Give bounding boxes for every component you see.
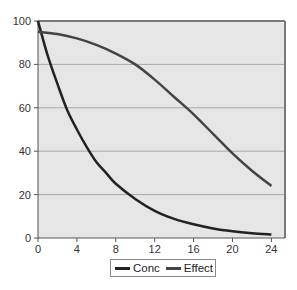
- legend-item-conc: Conc: [115, 262, 160, 274]
- y-tick-label: 20: [19, 189, 31, 201]
- legend-item-effect: Effect: [166, 262, 213, 274]
- y-tick-label: 60: [19, 102, 31, 114]
- legend-label-conc: Conc: [133, 262, 160, 274]
- legend-label-effect: Effect: [184, 262, 213, 274]
- x-tick-label: 4: [74, 243, 80, 255]
- x-tick-label: 0: [35, 243, 41, 255]
- y-tick-label: 80: [19, 58, 31, 70]
- x-tick-label: 12: [149, 243, 161, 255]
- plot-area: [38, 21, 285, 238]
- legend: Conc Effect: [110, 259, 216, 277]
- legend-swatch-effect: [166, 267, 181, 270]
- x-tick-label: 16: [187, 243, 199, 255]
- y-tick-label: 100: [13, 15, 31, 27]
- legend-swatch-conc: [115, 267, 130, 270]
- x-tick-label: 8: [113, 243, 119, 255]
- y-tick-label: 0: [25, 232, 31, 244]
- x-tick-label: 24: [265, 243, 277, 255]
- y-tick-label: 40: [19, 145, 31, 157]
- chart: 02040608010004812162024: [0, 0, 297, 290]
- x-tick-label: 20: [226, 243, 238, 255]
